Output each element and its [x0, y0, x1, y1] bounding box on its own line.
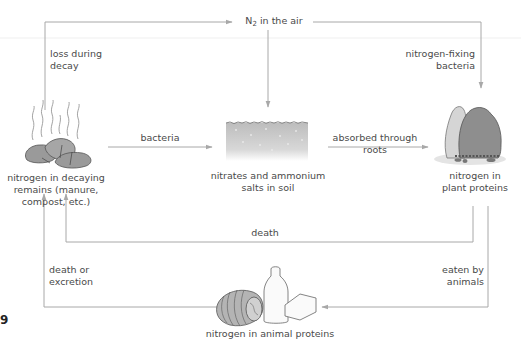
arrow-eaten-by-animals [322, 206, 488, 307]
animal-proteins-illustration [217, 267, 316, 326]
figure-number: 9 [0, 313, 8, 327]
absorbed-line1: absorbed through [325, 132, 425, 144]
edge-label-loss-during-decay: loss during decay [50, 48, 102, 72]
node-decaying-remains: nitrogen in decaying remains (manure, co… [0, 172, 112, 208]
plant-line1: nitrogen in [430, 170, 520, 182]
loss-line1: loss during [50, 48, 102, 60]
edge-label-absorbed-through-roots: absorbed through roots [325, 132, 425, 156]
fixing-line2: bacteria [390, 60, 475, 72]
death-excretion-line1: death or [49, 264, 93, 276]
soil-line2: salts in soil [205, 182, 331, 194]
decaying-remains-illustration [25, 100, 90, 168]
death-line1: death [245, 227, 285, 239]
absorbed-line2: roots [325, 144, 425, 156]
eaten-line2: animals [420, 276, 484, 288]
soil-illustration [226, 122, 308, 161]
soil-line1: nitrates and ammonium [205, 170, 331, 182]
bacteria-line1: bacteria [120, 132, 200, 144]
edge-label-death: death [245, 227, 285, 239]
edge-label-eaten-by-animals: eaten by animals [420, 264, 484, 288]
loss-line2: decay [50, 60, 102, 72]
eaten-line1: eaten by [420, 264, 484, 276]
plant-illustration [434, 107, 506, 165]
arrow-death-or-excretion [44, 194, 240, 307]
decaying-line1: nitrogen in decaying [0, 172, 112, 184]
decaying-line3: compost, etc.) [0, 196, 112, 208]
death-excretion-line2: excretion [49, 276, 93, 288]
animal-line1: nitrogen in animal proteins [190, 328, 350, 340]
edge-label-nitrogen-fixing-bacteria: nitrogen-fixing bacteria [390, 48, 475, 72]
edge-label-bacteria: bacteria [120, 132, 200, 144]
node-plant-proteins: nitrogen in plant proteins [430, 170, 520, 194]
decaying-line2: remains (manure, [0, 184, 112, 196]
fixing-line1: nitrogen-fixing [390, 48, 475, 60]
node-n2-in-the-air: N2 in the air [237, 15, 311, 30]
node-nitrates-in-soil: nitrates and ammonium salts in soil [205, 170, 331, 194]
plant-line2: plant proteins [430, 182, 520, 194]
edge-label-death-or-excretion: death or excretion [49, 264, 93, 288]
node-animal-proteins: nitrogen in animal proteins [190, 328, 350, 340]
n2-label-suffix: in the air [257, 15, 303, 26]
